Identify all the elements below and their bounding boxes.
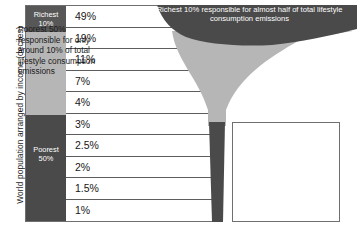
decile-rows: 49%19%11%7%4%3%2.5%2%1.5%1% — [66, 6, 221, 221]
poorest-label-text: Poorest 50% — [26, 146, 66, 163]
decile-value: 19% — [75, 32, 96, 44]
decile-value: 3% — [75, 118, 90, 130]
infographic-root: World population arranged by income (dec… — [0, 0, 357, 239]
decile-value: 4% — [75, 96, 90, 108]
decile-row: 1% — [66, 200, 221, 222]
poorest-label-line2: 50% — [26, 155, 66, 164]
decile-row: 2.5% — [66, 135, 221, 157]
decile-value: 1% — [75, 204, 90, 216]
bottom-callout-box — [232, 122, 340, 222]
decile-value: 49% — [75, 10, 96, 22]
decile-value: 2% — [75, 161, 90, 173]
decile-row: 4% — [66, 92, 221, 114]
decile-value: 1.5% — [75, 182, 99, 194]
top-annotation-text: Richest 10% responsible for almost half … — [148, 5, 351, 24]
decile-value: 7% — [75, 75, 90, 87]
poorest-label-block — [26, 115, 66, 222]
decile-value: 11% — [75, 53, 95, 65]
decile-row: 1.5% — [66, 178, 221, 200]
decile-value: 2.5% — [75, 139, 99, 151]
decile-row: 3% — [66, 114, 221, 136]
decile-row: 2% — [66, 157, 221, 179]
